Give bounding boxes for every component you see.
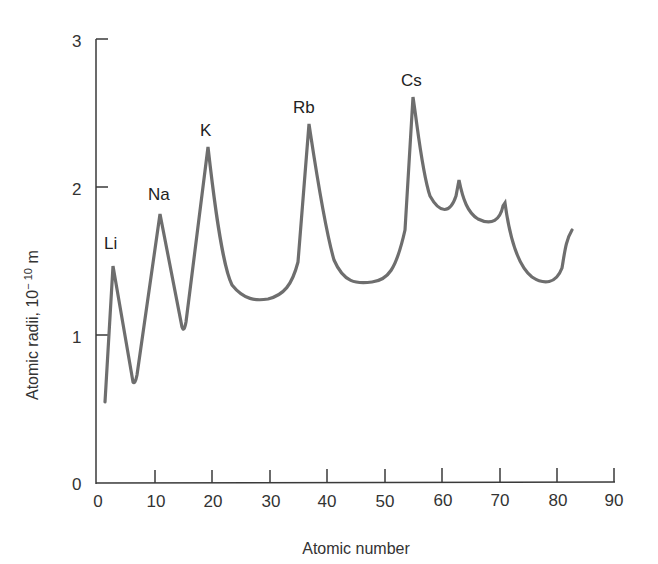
x-axis: 0 10 20 30 40 50 60 70 80 90 <box>93 468 623 511</box>
y-axis: 3 2 1 0 <box>72 32 108 494</box>
x-tick-label-50: 50 <box>376 492 395 511</box>
x-axis-title: Atomic number <box>302 540 410 557</box>
peak-label-na: Na <box>148 185 170 204</box>
peak-label-rb: Rb <box>293 98 315 117</box>
peak-label-k: K <box>200 121 212 140</box>
peak-label-li: Li <box>104 234 117 253</box>
x-tick-label-90: 90 <box>605 491 624 510</box>
y-tick-label-2: 2 <box>72 180 81 199</box>
x-tick-label-60: 60 <box>434 491 453 510</box>
y-axis-title-exponent: − 10 <box>22 268 34 290</box>
y-tick-label-1: 1 <box>72 328 81 347</box>
x-tick-label-40: 40 <box>318 492 337 511</box>
x-tick-label-10: 10 <box>147 492 166 511</box>
y-tick-label-0: 0 <box>72 475 81 494</box>
peak-label-cs: Cs <box>401 71 422 90</box>
y-tick-label-3: 3 <box>72 32 81 51</box>
y-axis-title-text: Atomic radii, 10 <box>24 290 41 400</box>
x-tick-label-80: 80 <box>549 491 568 510</box>
y-axis-title: Atomic radii, 10− 10 m <box>22 250 41 400</box>
x-tick-label-0: 0 <box>93 492 102 511</box>
atomic-radius-line <box>105 97 572 402</box>
x-tick-label-70: 70 <box>491 491 510 510</box>
x-tick-label-30: 30 <box>262 492 281 511</box>
x-tick-label-20: 20 <box>204 492 223 511</box>
y-axis-title-unit: m <box>24 250 41 268</box>
atomic-radii-chart: 3 2 1 0 0 10 20 30 40 50 60 70 80 90 Ato… <box>0 0 658 564</box>
x-ticks <box>155 468 614 483</box>
